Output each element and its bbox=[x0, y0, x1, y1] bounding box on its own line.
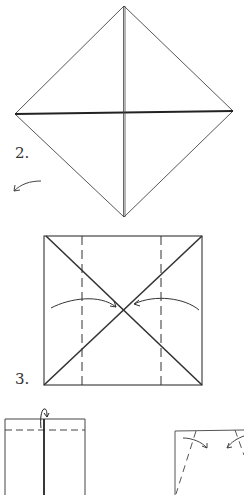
step-2-label: 2. bbox=[15, 144, 29, 162]
step-4-rectangle bbox=[5, 419, 85, 495]
origami-diagram bbox=[0, 0, 244, 495]
step-3-label: 3. bbox=[15, 370, 29, 388]
step-2-diamond bbox=[15, 6, 233, 217]
turn-over-arrow-icon bbox=[14, 181, 41, 191]
fold-arrow-right-icon bbox=[134, 298, 199, 310]
fold-arrow-left-icon bbox=[51, 299, 116, 308]
step-3-square bbox=[44, 236, 202, 385]
fold-arrow-in-right-icon bbox=[227, 436, 244, 448]
step-5-partial bbox=[175, 430, 244, 495]
